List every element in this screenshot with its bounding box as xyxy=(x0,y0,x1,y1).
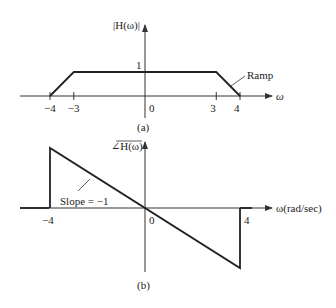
plot-a-tick-label: −4 xyxy=(44,102,56,114)
plot-b-y-label: ∠H(ω) xyxy=(111,140,143,153)
plot-a-y-label: |H(ω)| xyxy=(113,19,140,32)
plot-b: −404 ∠H(ω) ω(rad/sec) (b) Slope = −1 xyxy=(20,140,322,292)
plot-b-tick-label: 4 xyxy=(244,214,250,226)
plot-a: −4−3034 |H(ω)| 1 ω (a) Ramp xyxy=(20,19,284,134)
plot-a-tick-label: 4 xyxy=(234,102,240,114)
ramp-pointer xyxy=(231,76,245,86)
plot-b-tick-label: −4 xyxy=(42,214,54,226)
plot-a-tick-label: 3 xyxy=(210,102,216,114)
plot-b-tick-label: 0 xyxy=(149,214,155,226)
plot-b-caption: (b) xyxy=(137,279,150,292)
plot-a-y-tick-1: 1 xyxy=(136,59,142,71)
slope-pointer xyxy=(78,179,90,191)
ramp-annotation: Ramp xyxy=(247,69,274,81)
plot-a-tick-label: 0 xyxy=(149,102,155,114)
plot-a-x-label: ω xyxy=(276,90,284,102)
plot-b-x-label: ω(rad/sec) xyxy=(276,202,322,215)
plot-a-tick-label: −3 xyxy=(68,102,80,114)
slope-annotation: Slope = −1 xyxy=(60,195,108,207)
plot-a-caption: (a) xyxy=(137,121,150,134)
figure: −4−3034 |H(ω)| 1 ω (a) Ramp −404 ∠H(ω) ω… xyxy=(0,0,336,308)
